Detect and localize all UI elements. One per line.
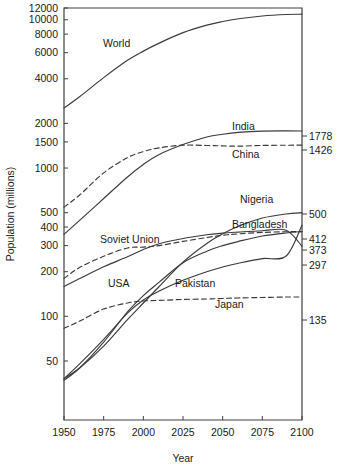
series-curve-world xyxy=(64,14,302,108)
y-tick-label: 200 xyxy=(40,265,58,277)
series-label-japan: Japan xyxy=(215,298,244,310)
y-tick-label: 10000 xyxy=(29,13,58,25)
x-axis-ticks: 1950197520002025205020752100 xyxy=(52,416,314,438)
series-label-pakistan: Pakistan xyxy=(175,277,215,289)
series-curve-pakistan xyxy=(64,232,302,381)
x-axis-title: Year xyxy=(172,452,194,464)
y-axis-title: Population (millions) xyxy=(4,167,16,262)
series-label-china: China xyxy=(232,148,260,160)
end-value-label: 297 xyxy=(309,259,327,271)
y-tick-label: 100 xyxy=(40,310,58,322)
x-tick-label: 2000 xyxy=(132,426,156,438)
series-label-soviet-union: Soviet Union xyxy=(100,233,160,245)
x-tick-label: 2100 xyxy=(290,426,314,438)
series-label-india: India xyxy=(232,120,255,132)
series-label-bangladesh: Bangladesh xyxy=(232,218,288,230)
x-tick-label: 2050 xyxy=(211,426,235,438)
y-tick-label: 500 xyxy=(40,206,58,218)
end-value-label: 500 xyxy=(309,208,327,220)
end-value-label: 1426 xyxy=(309,144,333,156)
axes-layer xyxy=(64,8,302,420)
chart-canvas: 5010020030040050010001500200040006000800… xyxy=(0,0,338,468)
y-tick-label: 6000 xyxy=(35,46,59,58)
series-label-nigeria: Nigeria xyxy=(240,193,273,205)
y-tick-label: 1500 xyxy=(35,136,59,148)
y-tick-label: 12000 xyxy=(29,2,58,14)
y-tick-label: 50 xyxy=(46,355,58,367)
series-inline-labels: WorldIndiaChinaNigeriaBangladeshSoviet U… xyxy=(100,37,288,310)
end-value-label: 373 xyxy=(309,244,327,256)
series-curve-bangladesh xyxy=(64,225,302,379)
end-value-label: 1778 xyxy=(309,130,333,142)
end-value-labels: 17781426500412373297135 xyxy=(302,130,333,326)
plot-frame xyxy=(64,8,302,420)
population-projection-chart: 5010020030040050010001500200040006000800… xyxy=(0,0,338,468)
x-tick-label: 2075 xyxy=(251,426,275,438)
y-tick-label: 4000 xyxy=(35,72,59,84)
y-tick-label: 2000 xyxy=(35,117,59,129)
series-label-world: World xyxy=(103,37,130,49)
x-tick-label: 1950 xyxy=(52,426,76,438)
y-tick-label: 8000 xyxy=(35,28,59,40)
series-curve-japan xyxy=(64,297,302,328)
x-tick-label: 1975 xyxy=(92,426,116,438)
series-label-usa: USA xyxy=(108,277,130,289)
y-axis-ticks: 5010020030040050010001500200040006000800… xyxy=(29,2,68,367)
y-tick-label: 1000 xyxy=(35,162,59,174)
x-tick-label: 2025 xyxy=(171,426,195,438)
y-tick-label: 300 xyxy=(40,239,58,251)
end-value-label: 135 xyxy=(309,314,327,326)
y-tick-label: 400 xyxy=(40,221,58,233)
